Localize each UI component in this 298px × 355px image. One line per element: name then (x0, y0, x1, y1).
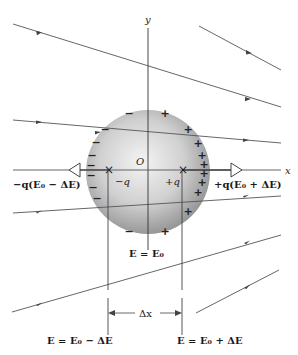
dipole-diagram: y x O Δx × × −q +q −q(E₀ − ΔE) +q(E₀ + Δ… (0, 0, 298, 355)
separation-label: Δx (139, 308, 152, 319)
surface-positive-charge: + (160, 107, 169, 120)
arrow-icon (36, 303, 42, 307)
field-line-6 (196, 270, 279, 313)
positive-charge-marker: × (178, 163, 188, 177)
force-right-arrowhead-icon (231, 163, 242, 177)
origin-label: O (136, 156, 144, 167)
field-line-5 (12, 235, 281, 312)
field-label-center: E = E₀ (129, 248, 165, 259)
arrow-icon (244, 285, 250, 290)
surface-negative-charge: − (124, 107, 133, 120)
field-line-2 (199, 26, 281, 70)
force-right-label: +q(E₀ + ΔE) (214, 179, 282, 190)
field-label-right: E = E₀ + ΔE (177, 335, 243, 346)
negative-charge-marker: × (104, 163, 114, 177)
surface-negative-charge: − (92, 192, 101, 205)
force-left-label: −q(E₀ − ΔE) (13, 179, 81, 190)
surface-positive-charge: + (160, 225, 169, 238)
arrow-icon (243, 139, 249, 143)
force-left-arrowhead-icon (69, 163, 80, 177)
field-line-1 (13, 24, 281, 107)
field-label-left: E = E₀ − ΔE (47, 335, 113, 346)
surface-positive-charge: + (193, 186, 202, 199)
surface-positive-charge: + (183, 205, 192, 218)
surface-negative-charge: − (100, 123, 109, 136)
positive-charge-label: +q (165, 176, 180, 187)
negative-charge-label: −q (115, 176, 130, 187)
surface-negative-charge: − (124, 225, 133, 238)
x-axis-label: x (285, 165, 291, 176)
y-axis-label: y (144, 14, 151, 25)
arrow-icon (243, 195, 249, 198)
arrow-icon (36, 121, 42, 125)
surface-negative-charge: − (91, 136, 100, 149)
surface-positive-charge: + (183, 123, 192, 136)
